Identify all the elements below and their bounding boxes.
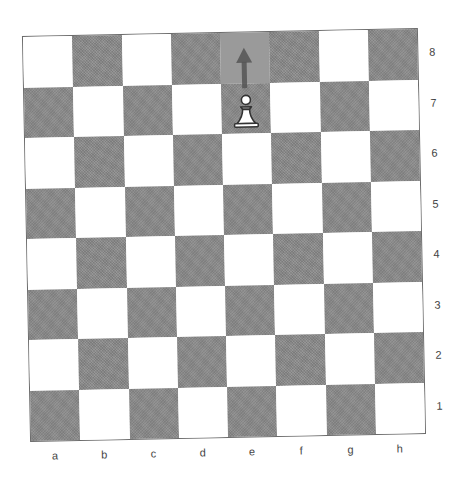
square-g4[interactable] bbox=[322, 232, 372, 283]
square-b4[interactable] bbox=[76, 237, 126, 288]
chess-board bbox=[22, 28, 426, 442]
square-b3[interactable] bbox=[77, 287, 127, 338]
square-c4[interactable] bbox=[125, 236, 175, 287]
rank-label-8: 8 bbox=[425, 46, 439, 58]
square-h7[interactable] bbox=[369, 80, 419, 131]
square-g1[interactable] bbox=[326, 384, 376, 435]
square-f8[interactable] bbox=[269, 31, 319, 82]
file-label-c: c bbox=[143, 447, 163, 459]
square-e1[interactable] bbox=[227, 385, 277, 436]
square-a6[interactable] bbox=[25, 137, 75, 188]
square-d3[interactable] bbox=[176, 285, 226, 336]
square-e6[interactable] bbox=[222, 133, 272, 184]
file-label-f: f bbox=[291, 444, 311, 456]
square-e3[interactable] bbox=[225, 285, 275, 336]
rank-label-7: 7 bbox=[426, 96, 440, 108]
square-b1[interactable] bbox=[79, 388, 129, 439]
square-h8[interactable] bbox=[368, 29, 418, 80]
square-h6[interactable] bbox=[370, 130, 420, 181]
file-label-g: g bbox=[340, 443, 360, 455]
file-label-b: b bbox=[94, 448, 114, 460]
square-f2[interactable] bbox=[275, 334, 325, 385]
square-d5[interactable] bbox=[174, 185, 224, 236]
square-f5[interactable] bbox=[272, 183, 322, 234]
square-a1[interactable] bbox=[30, 389, 80, 440]
square-a4[interactable] bbox=[27, 238, 77, 289]
square-d1[interactable] bbox=[178, 386, 228, 437]
square-g2[interactable] bbox=[324, 333, 374, 384]
file-label-a: a bbox=[45, 449, 65, 461]
square-b7[interactable] bbox=[73, 86, 123, 137]
square-c2[interactable] bbox=[128, 337, 178, 388]
square-b5[interactable] bbox=[75, 186, 125, 237]
board-stage: 87654321 abcdefgh bbox=[0, 0, 460, 480]
square-c5[interactable] bbox=[124, 185, 174, 236]
square-c8[interactable] bbox=[121, 34, 171, 85]
square-g7[interactable] bbox=[319, 81, 369, 132]
rank-label-6: 6 bbox=[427, 147, 441, 159]
file-label-e: e bbox=[242, 445, 262, 457]
square-c6[interactable] bbox=[123, 135, 173, 186]
square-h4[interactable] bbox=[372, 231, 422, 282]
square-e7[interactable] bbox=[221, 83, 271, 134]
square-b8[interactable] bbox=[72, 35, 122, 86]
square-d4[interactable] bbox=[175, 235, 225, 286]
square-e4[interactable] bbox=[224, 234, 274, 285]
square-f3[interactable] bbox=[274, 284, 324, 335]
square-a3[interactable] bbox=[28, 288, 78, 339]
square-g8[interactable] bbox=[318, 30, 368, 81]
rank-labels: 87654321 bbox=[0, 0, 455, 5]
rank-label-5: 5 bbox=[428, 197, 442, 209]
square-a8[interactable] bbox=[23, 36, 73, 87]
rank-label-1: 1 bbox=[432, 399, 446, 411]
file-labels: abcdefgh bbox=[0, 0, 455, 5]
square-d6[interactable] bbox=[173, 134, 223, 185]
rank-label-2: 2 bbox=[431, 349, 445, 361]
square-e8[interactable] bbox=[220, 32, 270, 83]
file-label-h: h bbox=[390, 442, 410, 454]
file-label-d: d bbox=[193, 446, 213, 458]
square-f1[interactable] bbox=[276, 384, 326, 435]
rank-label-4: 4 bbox=[429, 248, 443, 260]
square-c7[interactable] bbox=[122, 85, 172, 136]
square-a2[interactable] bbox=[29, 339, 79, 390]
square-b6[interactable] bbox=[74, 136, 124, 187]
square-a7[interactable] bbox=[24, 86, 74, 137]
square-f4[interactable] bbox=[273, 233, 323, 284]
white-pawn-icon[interactable] bbox=[221, 83, 271, 134]
square-e5[interactable] bbox=[223, 184, 273, 235]
rank-label-3: 3 bbox=[430, 298, 444, 310]
square-d7[interactable] bbox=[172, 84, 222, 135]
square-a5[interactable] bbox=[26, 187, 76, 238]
square-c3[interactable] bbox=[127, 286, 177, 337]
square-d2[interactable] bbox=[177, 336, 227, 387]
square-e2[interactable] bbox=[226, 335, 276, 386]
square-h1[interactable] bbox=[375, 383, 425, 434]
square-b2[interactable] bbox=[78, 338, 128, 389]
square-h5[interactable] bbox=[371, 181, 421, 232]
square-f7[interactable] bbox=[270, 82, 320, 133]
square-d8[interactable] bbox=[171, 33, 221, 84]
square-h3[interactable] bbox=[373, 282, 423, 333]
square-f6[interactable] bbox=[271, 132, 321, 183]
square-g6[interactable] bbox=[320, 131, 370, 182]
square-c1[interactable] bbox=[129, 387, 179, 438]
square-g3[interactable] bbox=[323, 283, 373, 334]
square-g5[interactable] bbox=[321, 182, 371, 233]
square-h2[interactable] bbox=[374, 332, 424, 383]
